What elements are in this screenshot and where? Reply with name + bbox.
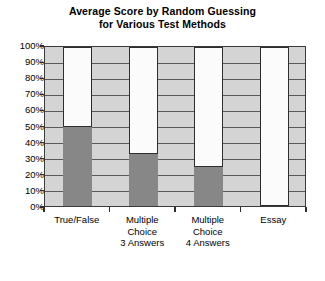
bar (194, 47, 223, 206)
x-axis-tick-mark (43, 207, 44, 212)
y-axis-tick-label: 90% (6, 57, 44, 67)
y-axis-tick-label: 10% (6, 186, 44, 196)
chart-title: Average Score by Random Guessing for Var… (0, 5, 325, 31)
x-axis-tick-mark (174, 207, 175, 212)
x-axis-category-label-line: Essay (228, 214, 318, 226)
x-axis-tick-mark (240, 207, 241, 212)
x-axis-category-label-line: 4 Answers (163, 237, 253, 249)
bar (129, 47, 158, 206)
bar-value-fill (63, 126, 92, 207)
chart-container: Average Score by Random Guessing for Var… (0, 0, 325, 281)
x-axis-tick-mark (305, 207, 306, 212)
x-axis-tick-mark (109, 207, 110, 212)
bar (63, 47, 92, 206)
y-axis-tick-label: 30% (6, 154, 44, 164)
y-axis-tick-label: 50% (6, 122, 44, 132)
plot-area (44, 46, 306, 207)
chart-title-line-2: for Various Test Methods (0, 18, 325, 31)
y-axis-tick-label: 100% (6, 41, 44, 51)
x-axis-category-label: Essay (228, 214, 318, 226)
x-axis: True/FalseMultipleChoice3 AnswersMultipl… (0, 207, 325, 281)
y-axis-tick-label: 80% (6, 73, 44, 83)
chart-title-line-1: Average Score by Random Guessing (69, 5, 256, 17)
bar (260, 47, 289, 206)
y-axis-tick-label: 20% (6, 170, 44, 180)
bar-column-outline (260, 47, 289, 206)
x-axis-category-label-line: Choice (163, 226, 253, 238)
y-axis-tick-label: 70% (6, 89, 44, 99)
bar-value-fill (129, 153, 158, 206)
y-axis-tick-label: 40% (6, 138, 44, 148)
bar-value-fill (194, 166, 223, 206)
y-axis-tick-label: 60% (6, 105, 44, 115)
